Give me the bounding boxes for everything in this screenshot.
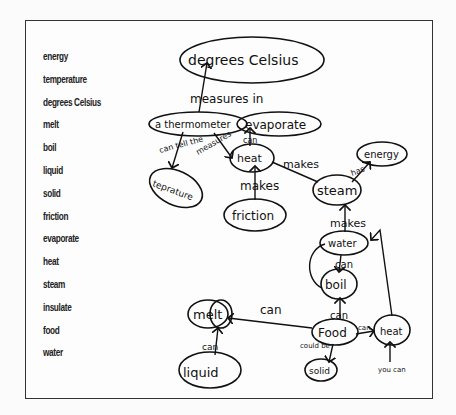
edge-boil-water-loop [310,244,325,288]
node-energy: energy [357,142,407,166]
svg-text:steam: steam [317,183,358,198]
label-you-can: you can [378,366,406,374]
svg-text:solid: solid [309,366,330,376]
node-boil: boil [321,269,357,299]
svg-text:melt: melt [193,307,222,322]
node-melt: melt [188,300,232,328]
svg-text:degrees Celsius: degrees Celsius [188,52,298,68]
label-water-makes: makes [330,217,366,230]
node-steam: steam [313,175,361,205]
label-measures-in: measures in [190,92,263,106]
label-heat-makes: makes [283,158,319,171]
label-food-can-melt: can [260,303,282,317]
edge-food-melt [228,318,312,328]
node-heat-bottom: heat [374,315,410,345]
edge-heat-water [371,230,392,316]
node-degrees-celsius: degrees Celsius [180,37,324,83]
svg-text:evaporate: evaporate [245,118,306,132]
svg-text:water: water [328,238,357,249]
concept-map: measures in can tell the measures can ma… [0,0,456,415]
label-has: has [350,165,366,178]
node-friction: friction [224,199,286,231]
node-water: water [320,231,368,255]
svg-text:liquid: liquid [183,365,219,380]
node-liquid: liquid [179,352,241,388]
node-thermometer: a thermometer [149,112,247,136]
svg-text:heat: heat [380,326,403,337]
svg-text:boil: boil [325,278,347,292]
node-evaporate: evaporate [237,112,321,136]
svg-text:a thermometer: a thermometer [155,119,231,130]
edge-labels: measures in can tell the measures can ma… [158,92,405,374]
svg-text:energy: energy [364,149,399,160]
label-friction-makes: makes [240,179,279,193]
label-food-can-heat: can [358,324,371,332]
svg-text:teprature: teprature [151,178,195,202]
node-solid: solid [305,359,337,381]
svg-text:Food: Food [318,326,347,340]
label-liquid-can: can [202,342,218,352]
node-temperature: teprature [143,161,208,215]
node-heat-top: heat [230,144,274,172]
svg-text:heat: heat [237,152,262,165]
svg-text:friction: friction [232,209,274,223]
node-food: Food [312,319,358,345]
